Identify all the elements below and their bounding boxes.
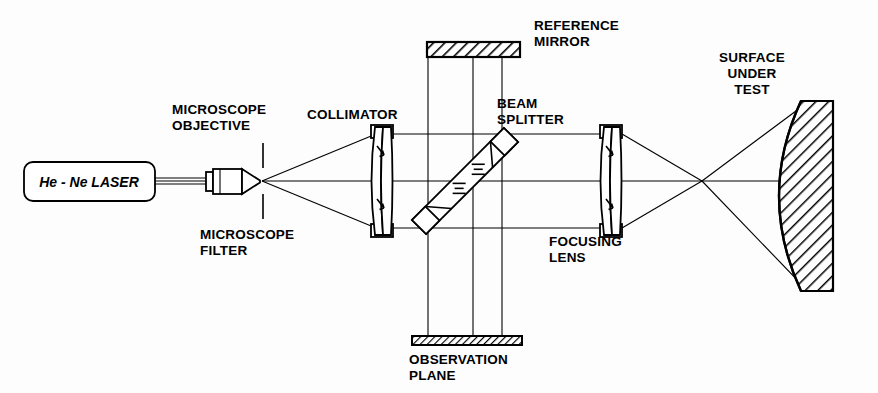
- observation-plane: [412, 336, 522, 345]
- focusing-lens: [600, 125, 622, 237]
- surface-under-test: [779, 101, 833, 291]
- reference-mirror-surface: [427, 42, 520, 57]
- reference-mirror: [427, 42, 520, 57]
- label-observation-plane: OBSERVATION PLANE: [409, 352, 508, 383]
- he-ne-laser: He - Ne LASER: [24, 162, 155, 201]
- observation-plane-label-line2: PLANE: [409, 368, 456, 383]
- collimator: [371, 125, 393, 237]
- label-surface-under-test: SURFACE UNDER TEST: [719, 50, 785, 97]
- objective-nose-cone: [242, 169, 260, 194]
- beam-splitter-label-line2: SPLITTER: [497, 112, 564, 127]
- beam-splitter-label-line1: BEAM: [497, 96, 538, 111]
- focusing-lens-element-2: [610, 127, 622, 235]
- test-surface-body: [779, 101, 833, 291]
- laser-label: He - Ne LASER: [39, 174, 139, 190]
- label-reference-mirror: REFERENCE MIRROR: [534, 18, 619, 49]
- microscope-objective-label-line2: OBJECTIVE: [172, 118, 250, 133]
- focusing-lens-label-line1: FOCUSING: [549, 234, 622, 249]
- objective-flange: [206, 172, 213, 191]
- diverging-beam: [262, 134, 376, 228]
- focusing-lens-label-line2: LENS: [549, 250, 586, 265]
- microscope-filter-label-line2: FILTER: [200, 243, 247, 258]
- reference-mirror-label-line2: MIRROR: [534, 34, 590, 49]
- observation-plane-label-line1: OBSERVATION: [409, 352, 508, 367]
- surface-under-test-label-line2: UNDER: [727, 66, 776, 81]
- label-focusing-lens: FOCUSING LENS: [549, 234, 622, 265]
- collimator-element-2: [381, 127, 393, 235]
- microscope-filter-label-line1: MICROSCOPE: [200, 227, 294, 242]
- diagram-canvas: He - Ne LASER: [0, 0, 878, 393]
- optical-diagram: He - Ne LASER: [0, 0, 878, 393]
- label-microscope-filter: MICROSCOPE FILTER: [200, 227, 294, 258]
- microscope-objective-label-line1: MICROSCOPE: [172, 102, 266, 117]
- reference-mirror-label-line1: REFERENCE: [534, 18, 619, 33]
- microscope-objective: [206, 169, 260, 194]
- label-beam-splitter: BEAM SPLITTER: [497, 96, 564, 127]
- label-collimator: COLLIMATOR: [307, 107, 398, 122]
- collimator-label: COLLIMATOR: [307, 107, 398, 122]
- label-microscope-objective: MICROSCOPE OBJECTIVE: [172, 102, 266, 133]
- objective-barrel: [213, 169, 242, 194]
- observation-plane-screen: [412, 336, 522, 345]
- surface-under-test-label-line3: TEST: [734, 82, 770, 97]
- laser-output-beam: [155, 178, 208, 184]
- surface-under-test-label-line1: SURFACE: [719, 50, 785, 65]
